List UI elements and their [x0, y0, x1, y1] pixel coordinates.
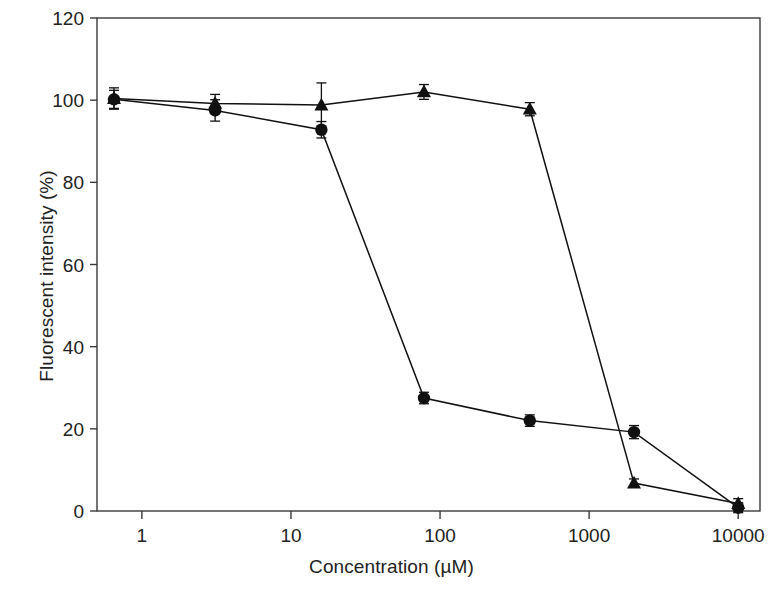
x-tick-label: 1 — [137, 525, 148, 546]
y-tick-label: 60 — [63, 255, 84, 276]
y-tick-label: 40 — [63, 337, 84, 358]
data-point-circle — [524, 414, 536, 426]
series-line-triangle-series — [114, 92, 738, 504]
chart-figure: 020406080100120110100100010000 Concentra… — [0, 0, 783, 590]
data-point-triangle — [627, 476, 641, 489]
series-line-circle-series — [114, 99, 738, 507]
y-tick-label: 0 — [73, 501, 84, 522]
x-tick-label: 1000 — [568, 525, 610, 546]
plot-area: 020406080100120110100100010000 — [0, 0, 783, 590]
data-point-triangle — [208, 96, 222, 109]
x-axis-title: Concentration (µM) — [0, 556, 783, 578]
data-point-circle — [628, 426, 640, 438]
data-point-circle — [418, 392, 430, 404]
x-tick-label: 10 — [280, 525, 301, 546]
data-point-triangle — [417, 85, 431, 98]
y-tick-label: 120 — [52, 8, 84, 29]
y-tick-label: 20 — [63, 419, 84, 440]
y-tick-label: 80 — [63, 172, 84, 193]
x-tick-label: 100 — [424, 525, 456, 546]
y-axis-title: Fluorescent intensity (%) — [36, 36, 58, 516]
x-tick-label: 10000 — [712, 525, 765, 546]
